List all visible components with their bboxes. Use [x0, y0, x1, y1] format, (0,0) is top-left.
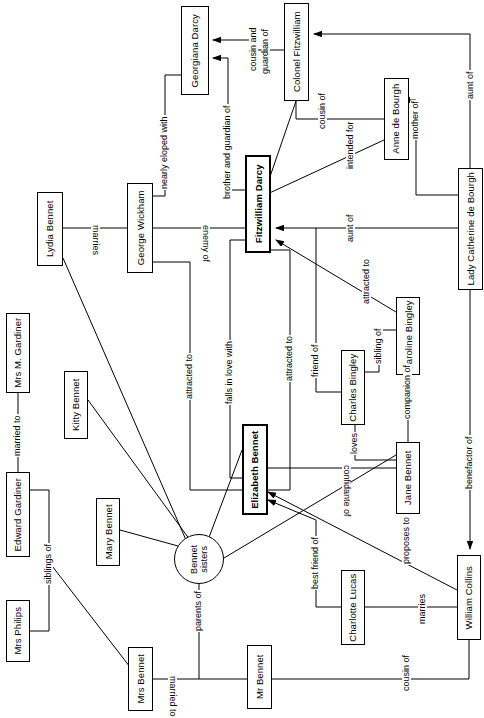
edge-label-text: married to: [168, 676, 178, 717]
node-jane-bennet[interactable]: Jane Bennet: [396, 442, 420, 514]
edge-label-loves: loves: [350, 432, 359, 455]
node-mrs-philips[interactable]: Mrs Philips: [6, 600, 30, 662]
edge-label-companion-of: companion of: [403, 364, 412, 420]
edge-label-text: married to: [12, 415, 22, 456]
node-colonel-fitzwilliam[interactable]: Colonel Fitzwilliam: [284, 3, 309, 101]
node-label: William Collins: [464, 566, 474, 629]
edge-label-text: intended for: [345, 121, 355, 169]
node-label: Lady Catherine de Bourgh: [466, 172, 476, 285]
edge-label-text: confidante of: [342, 465, 352, 517]
edge-label-proposes-to: proposes to: [402, 516, 411, 565]
edge-label-siblings-of: siblings of: [44, 543, 53, 585]
edge-label-cousin-of-anne: cousin of: [318, 92, 327, 130]
edge-label-text: cousin and: [248, 27, 258, 71]
edge-label-text: benefactor of: [464, 436, 474, 489]
node-william-collins[interactable]: William Collins: [457, 555, 481, 640]
edge-label-text: enemy of: [201, 225, 211, 262]
node-edward-gardiner[interactable]: Edward Gardiner: [6, 472, 30, 557]
node-label: Mrs Philips: [13, 607, 23, 655]
node-label: Colonel Fitzwilliam: [292, 12, 302, 93]
node-label: Charles Bingley: [348, 353, 358, 421]
edge-label-marries-wickham-lydia: marries: [91, 224, 100, 256]
node-label: Kitty Bennet: [71, 379, 81, 431]
node-fitzwilliam-darcy[interactable]: Fitzwilliam Darcy: [245, 155, 271, 253]
node-label: Mr Bennet: [255, 655, 265, 700]
edge-label-nearly-eloped-with: nearly eloped with: [160, 115, 169, 190]
node-georgiana-darcy[interactable]: Georgiana Darcy: [181, 6, 209, 95]
edge-label-sibling-of: sibling of: [374, 327, 383, 365]
node-mrs-bennet[interactable]: Mrs Bennet: [128, 647, 153, 711]
node-charlotte-lucas[interactable]: Charlotte Lucas: [341, 570, 365, 645]
edge-label-marries-charlotte-collins: marries: [418, 593, 427, 625]
edge-label-text: cousin of: [317, 93, 327, 129]
edge-label-intended-for: intended for: [346, 120, 355, 170]
edge-label-married-to-bennets: married to: [168, 675, 177, 718]
node-lydia-bennet[interactable]: Lydia Bennet: [37, 192, 63, 266]
edge-label-text: aunt of: [465, 71, 475, 99]
edge-label-attracted-to-wickham: attracted to: [185, 353, 194, 400]
edge-label-cousin-and-guardian-of-line2: guardian of: [261, 28, 270, 75]
edge-label-brother-and-guardian-of: brother and guardian of: [223, 104, 232, 200]
edge-label-text: attracted to: [184, 354, 194, 399]
node-label: Anne de Bourgh: [392, 84, 402, 154]
edge-label-text: cousin of: [401, 655, 411, 691]
edge-label-text: proposes to: [401, 517, 411, 564]
edge-label-text: attracted to: [361, 259, 371, 304]
edge-label-text: loves: [349, 433, 359, 454]
edge-label-text: brother and guardian of: [222, 105, 232, 199]
node-mrs-m-gardiner[interactable]: Mrs M. Gardiner: [6, 313, 30, 393]
node-charles-bingley[interactable]: Charles Bingley: [341, 350, 365, 425]
node-mary-bennet[interactable]: Mary Bennet: [96, 498, 120, 566]
edge-label-text: parents of: [193, 591, 203, 631]
edge-label-text: attracted to: [284, 336, 294, 381]
node-label: Lydia Bennet: [45, 201, 55, 257]
edge-label-attracted-to-elizabeth: attracted to: [285, 335, 294, 382]
edge-label-text: aunt of: [345, 214, 355, 242]
node-kitty-bennet[interactable]: Kitty Bennet: [64, 371, 88, 439]
node-label: Mrs M. Gardiner: [13, 318, 23, 388]
node-elizabeth-bennet[interactable]: Elizabeth Bennet: [242, 424, 268, 515]
node-george-wickham[interactable]: George Wickham: [127, 183, 153, 273]
node-label: Bennet sisters: [189, 537, 210, 581]
edge-label-cousin-and-guardian-of-line1: cousin and: [249, 26, 258, 72]
edge-label-friend-of: friend of: [311, 343, 320, 378]
node-label: Caroline Bingley: [403, 301, 413, 372]
edge-label-mother-of: mother of: [411, 100, 420, 140]
edge-label-aunt-of-fitzwilliam: aunt of: [466, 70, 475, 100]
edge-label-text: best friend of: [310, 537, 320, 589]
edge-label-text: guardian of: [260, 29, 270, 74]
relationship-diagram-canvas: Georgiana Darcy Colonel Fitzwilliam Anne…: [0, 0, 484, 718]
node-label: Mrs Bennet: [136, 654, 146, 704]
edge-label-text: siblings of: [43, 544, 53, 584]
node-lady-catherine-de-bourgh[interactable]: Lady Catherine de Bourgh: [458, 168, 483, 290]
node-label: Fitzwilliam Darcy: [253, 165, 263, 244]
edge-label-text: companion of: [402, 365, 412, 419]
node-bennet-sisters[interactable]: Bennet sisters: [174, 534, 224, 584]
edge-label-confidante-of: confidante of: [342, 464, 351, 518]
node-label: George Wickham: [135, 191, 145, 266]
edge-label-falls-in-love-with: falls in love with: [225, 340, 234, 405]
edge-label-enemy-of: enemy of: [201, 224, 210, 263]
node-label: Charlotte Lucas: [348, 573, 358, 641]
node-label: Jane Bennet: [403, 451, 413, 505]
edge-label-text: friend of: [310, 344, 320, 377]
edge-label-aunt-of-darcy: aunt of: [346, 213, 355, 243]
edge-label-cousin-of-collins: cousin of: [402, 654, 411, 692]
edge-label-attracted-to-caroline: attracted to: [362, 258, 371, 305]
edge-label-married-to-gardiners: married to: [13, 414, 22, 457]
edge-label-text: nearly eloped with: [159, 116, 169, 189]
edge-label-text: marries: [91, 225, 101, 255]
node-label: Mary Bennet: [103, 505, 113, 560]
node-anne-de-bourgh[interactable]: Anne de Bourgh: [384, 78, 409, 160]
edge-label-parents-of: parents of: [194, 590, 203, 632]
edge-label-text: falls in love with: [224, 341, 234, 404]
node-label: Edward Gardiner: [13, 478, 23, 551]
edge-label-text: marries: [417, 594, 427, 624]
edge-label-text: mother of: [410, 101, 420, 139]
node-label: Georgiana Darcy: [190, 14, 200, 87]
node-mr-bennet[interactable]: Mr Bennet: [247, 645, 272, 709]
edge-label-text: sibling of: [373, 328, 383, 364]
edge-label-benefactor-of: benefactor of: [465, 435, 474, 490]
node-label: Elizabeth Bennet: [250, 430, 260, 508]
edge-label-best-friend-of: best friend of: [311, 536, 320, 590]
